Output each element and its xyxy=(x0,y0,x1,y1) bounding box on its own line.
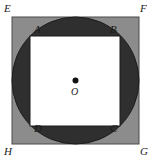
center-point-dot xyxy=(73,78,79,84)
vertex-label-c: C xyxy=(110,122,118,134)
vertex-label-h: H xyxy=(3,145,13,157)
geometry-figure: E F G H A B C D O xyxy=(0,0,151,158)
vertex-label-a: A xyxy=(33,23,41,35)
vertex-label-d: D xyxy=(33,122,42,134)
figure-canvas: E F G H A B C D O xyxy=(0,0,151,158)
vertex-label-e: E xyxy=(3,2,11,14)
vertex-label-b: B xyxy=(110,23,117,35)
vertex-label-f: F xyxy=(139,2,147,14)
center-point-label: O xyxy=(71,86,78,97)
vertex-label-g: G xyxy=(140,145,148,157)
